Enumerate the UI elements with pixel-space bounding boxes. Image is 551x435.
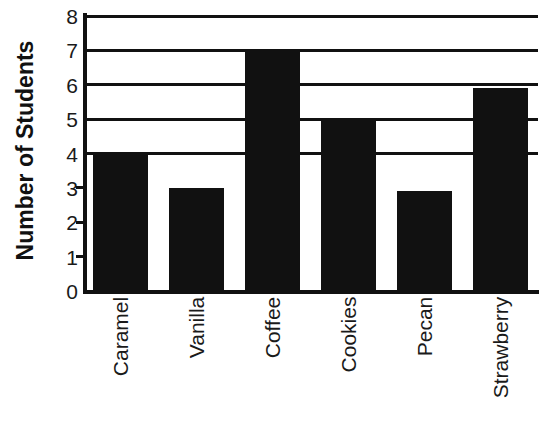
x-tick-label-text: Pecan bbox=[414, 297, 435, 357]
bar bbox=[245, 50, 300, 291]
y-axis-tick-labels: 012345678 bbox=[52, 0, 80, 310]
x-tick-label: Cookies bbox=[321, 296, 376, 428]
x-tick-label-text: Coffee bbox=[262, 297, 283, 359]
y-tick-label: 4 bbox=[66, 143, 78, 164]
gridline bbox=[83, 118, 538, 121]
y-tick-label: 6 bbox=[66, 74, 78, 95]
x-tick-label: Coffee bbox=[245, 296, 300, 428]
y-tick-label: 0 bbox=[66, 281, 78, 302]
gridline bbox=[83, 83, 538, 86]
y-axis-title-label: Number of Students bbox=[13, 40, 40, 260]
bar bbox=[473, 88, 528, 291]
y-tick-label: 8 bbox=[66, 6, 78, 27]
x-tick-label: Caramel bbox=[93, 296, 148, 428]
x-tick-label-text: Caramel bbox=[110, 296, 131, 375]
x-axis-line bbox=[83, 290, 539, 294]
y-tick-label: 5 bbox=[66, 109, 78, 130]
y-tick-label: 7 bbox=[66, 40, 78, 61]
x-tick-label-text: Vanilla bbox=[186, 296, 207, 357]
bar bbox=[93, 154, 148, 292]
x-axis-category-labels: CaramelVanillaCoffeeCookiesPecanStrawber… bbox=[83, 296, 551, 435]
x-tick-label-text: Strawberry bbox=[490, 297, 511, 399]
y-axis-title: Number of Students bbox=[0, 0, 52, 300]
gridline bbox=[83, 152, 538, 155]
y-tickmark bbox=[76, 255, 87, 258]
x-tick-label: Vanilla bbox=[169, 296, 224, 428]
x-tick-label: Strawberry bbox=[473, 296, 528, 428]
bar bbox=[169, 188, 224, 291]
gridline bbox=[83, 15, 538, 18]
bar bbox=[397, 191, 452, 291]
plot-area bbox=[83, 16, 538, 291]
x-tick-label-text: Cookies bbox=[338, 297, 359, 373]
bar bbox=[321, 121, 376, 291]
x-tick-label: Pecan bbox=[397, 296, 452, 428]
y-tickmark bbox=[76, 186, 87, 189]
gridline bbox=[83, 49, 538, 52]
y-tickmark bbox=[76, 221, 87, 224]
bar-chart: Number of Students 012345678 CaramelVani… bbox=[0, 0, 551, 435]
